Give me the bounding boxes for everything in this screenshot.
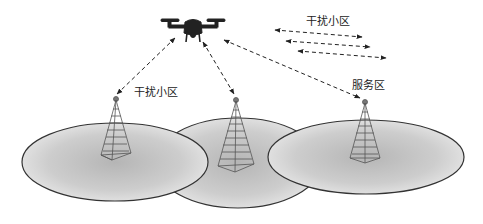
serving-cell-label: 服务区 <box>352 76 385 92</box>
interference-cell-label-top: 干扰小区 <box>306 12 350 28</box>
interference-arrows <box>275 30 386 58</box>
link-uav-right-tower <box>224 40 360 98</box>
drone-icon <box>161 19 225 42</box>
interference-cell-label-left: 干扰小区 <box>134 83 178 99</box>
diagram-canvas <box>0 0 483 224</box>
link-uav-middle-tower <box>203 42 234 94</box>
cell-right <box>268 120 464 194</box>
cell-left <box>22 123 208 201</box>
